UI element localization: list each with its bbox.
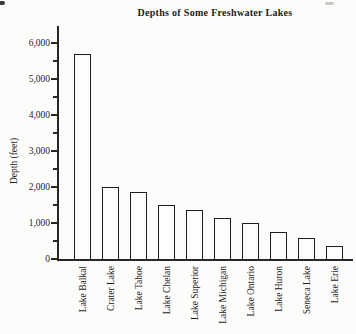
y-tick-label-6000: 6,000 [0,37,50,49]
x-label-lake-erie: Lake Erie [329,266,341,330]
bar-lake-erie [326,246,343,260]
y-tick-major-3000 [51,150,58,151]
y-tick-minor-4500 [53,96,58,97]
bar-lake-michigan [214,218,231,259]
y-tick-major-1000 [51,222,58,223]
y-tick-label-5000: 5,000 [0,73,50,85]
x-label-lake-michigan: Lake Michigan [217,266,229,330]
print-artifact [0,1,5,5]
bar-lake-balkal [74,54,91,259]
y-tick-major-0 [51,258,58,259]
bar-lake-ontario [242,223,259,259]
y-tick-label-4000: 4,000 [0,109,50,121]
bar-crater-lake [102,187,119,259]
bar-lake-superior [186,210,203,259]
y-tick-minor-5500 [53,60,58,61]
y-tick-label-2000: 2,000 [0,181,50,193]
y-tick-minor-1500 [53,204,58,205]
x-label-lake-huron: Lake Huron [273,266,285,330]
y-tick-minor-2500 [53,168,58,169]
y-tick-major-6000 [51,42,58,43]
x-axis [57,259,353,261]
y-tick-minor-500 [53,240,58,241]
x-label-lake-ontario: Lake Ontario [245,266,257,330]
y-tick-label-1000: 1,000 [0,217,50,229]
x-label-lake-balkal: Lake Balkal [77,266,89,330]
y-tick-label-0: 0 [0,253,50,265]
bar-lake-chelan [158,205,175,259]
x-label-seneca-lake: Seneca Lake [301,266,313,330]
bar-seneca-lake [298,238,315,259]
x-label-lake-superior: Lake Superior [189,266,201,330]
y-tick-label-3000: 3,000 [0,145,50,157]
y-tick-major-2000 [51,186,58,187]
y-tick-major-4000 [51,114,58,115]
x-label-crater-lake: Crater Lake [105,266,117,330]
chart-title: Depths of Some Freshwater Lakes [74,7,356,18]
x-label-lake-tahoe: Lake Tahoe [133,266,145,330]
bar-lake-tahoe [130,192,147,259]
bar-lake-huron [270,232,287,259]
y-tick-major-5000 [51,78,58,79]
y-tick-minor-3500 [53,132,58,133]
print-smudge [325,2,334,5]
x-label-lake-chelan: Lake Chelan [161,266,173,330]
chart-canvas: Depths of Some Freshwater Lakes Depth (f… [0,0,356,334]
